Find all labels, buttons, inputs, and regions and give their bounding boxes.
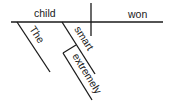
adverb-connector-line [63,45,76,53]
predicate-word: won [127,8,147,20]
adjective-word: smart [72,24,96,53]
subject-word: child [34,7,56,19]
sentence-diagram: child won The smart extremely [0,0,172,108]
